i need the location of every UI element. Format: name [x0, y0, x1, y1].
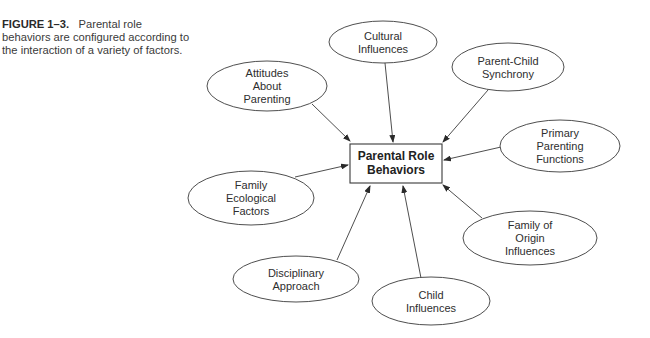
- node-cultural: CulturalInfluences: [329, 21, 437, 63]
- diagram: CulturalInfluencesAttitudesAboutParentin…: [0, 0, 650, 338]
- arrow-child: [403, 186, 421, 278]
- node-label: Influences: [505, 245, 556, 257]
- node-label: Origin: [515, 232, 544, 244]
- node-primary: PrimaryParentingFunctions: [500, 120, 620, 172]
- node-label: Factors: [233, 205, 270, 217]
- arrow-attitudes: [312, 104, 350, 141]
- node-label: Disciplinary: [268, 267, 325, 279]
- arrow-cultural: [385, 63, 393, 142]
- node-label: Ecological: [226, 192, 276, 204]
- node-label: Primary: [541, 127, 579, 139]
- node-label: Attitudes: [246, 67, 289, 79]
- node-attitudes: AttitudesAboutParenting: [207, 61, 327, 111]
- arrow-disciplinary: [337, 186, 370, 260]
- arrow-family-origin: [443, 185, 482, 218]
- node-label: Family: [235, 179, 268, 191]
- node-family-origin: Family ofOriginInfluences: [463, 211, 597, 265]
- node-label: Child: [418, 289, 443, 301]
- node-label: About: [253, 80, 282, 92]
- node-label: Parenting: [536, 140, 583, 152]
- node-label: Family of: [508, 219, 554, 231]
- node-label: Influences: [358, 43, 409, 55]
- center-label: Behaviors: [367, 163, 425, 177]
- center-node: Parental RoleBehaviors: [350, 144, 442, 183]
- node-label: Functions: [536, 153, 584, 165]
- center-label: Parental Role: [358, 149, 435, 163]
- node-parent-child: Parent-ChildSynchrony: [452, 43, 564, 91]
- node-label: Approach: [272, 280, 319, 292]
- node-child: ChildInfluences: [372, 277, 490, 325]
- arrow-primary: [444, 147, 501, 160]
- node-label: Cultural: [364, 30, 402, 42]
- node-label: Synchrony: [482, 68, 534, 80]
- node-label: Parenting: [243, 93, 290, 105]
- arrow-parent-child: [443, 90, 488, 142]
- node-disciplinary: DisciplinaryApproach: [233, 256, 359, 302]
- node-label: Influences: [406, 302, 457, 314]
- node-label: Parent-Child: [477, 55, 538, 67]
- node-family-ecological: FamilyEcologicalFactors: [188, 171, 314, 225]
- arrow-family-ecological: [295, 165, 348, 177]
